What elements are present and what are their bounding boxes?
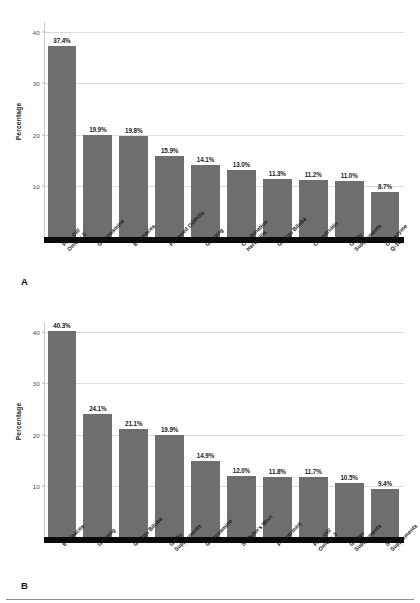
bar-value-label: 9.4% — [378, 480, 392, 487]
y-tick-label: 10 — [33, 482, 40, 489]
chart-panel-a: Percentage 10203040 37.4%19.9%19.8%15.9%… — [0, 0, 420, 300]
figure-page: Percentage 10203040 37.4%19.9%19.8%15.9%… — [0, 0, 420, 603]
bar-value-label: 19.9% — [89, 126, 106, 133]
y-tick-label: 40 — [33, 29, 40, 36]
bar — [83, 135, 112, 237]
bar-column: 11.3% — [263, 22, 292, 237]
bar — [335, 181, 364, 237]
bar — [83, 414, 112, 537]
bar — [299, 180, 328, 237]
bar-column: 12.0% — [227, 322, 256, 537]
bar-column: 19.9% — [83, 22, 112, 237]
bar-column: 24.1% — [83, 322, 112, 537]
bar — [299, 477, 328, 537]
bar-column: 11.2% — [299, 22, 328, 237]
bar-value-label: 19.9% — [161, 426, 178, 433]
bar-column: 14.9% — [191, 322, 220, 537]
bar-value-label: 11.0% — [341, 172, 358, 179]
bar-value-label: 10.5% — [340, 474, 357, 481]
bar-column: 19.9% — [155, 322, 184, 537]
bar — [227, 170, 256, 237]
bar-value-label: 11.8% — [269, 468, 286, 475]
y-tick-label: 20 — [33, 431, 40, 438]
bar-column: 37.4% — [48, 22, 77, 237]
bar-column: 13.0% — [227, 22, 256, 237]
bar-column: 11.0% — [335, 22, 364, 237]
y-tick-label: 30 — [33, 380, 40, 387]
bar — [119, 429, 148, 537]
bar-column: 14.1% — [191, 22, 220, 237]
bar-column: 10.5% — [335, 322, 364, 537]
bar-column: 8.7% — [371, 22, 400, 237]
bar-value-label: 14.9% — [197, 452, 214, 459]
y-tick-label: 40 — [33, 329, 40, 336]
y-axis-title-b: Percentage — [15, 392, 22, 452]
bar-value-label: 37.4% — [53, 37, 70, 44]
chart-panel-b: Percentage 10203040 40.3%24.1%21.1%19.9%… — [0, 300, 420, 603]
y-tick-label: 10 — [33, 182, 40, 189]
bar-value-label: 8.7% — [378, 183, 392, 190]
bar-value-label: 19.8% — [125, 127, 142, 134]
bar-column: 11.7% — [299, 322, 328, 537]
bar-series-a: 37.4%19.9%19.8%15.9%14.1%13.0%11.3%11.2%… — [44, 22, 404, 237]
bar-value-label: 11.3% — [269, 170, 286, 177]
bar-value-label: 11.7% — [305, 468, 322, 475]
x-axis-labels-a: Fish Oil/ Omega 3GlucosamineEchinaceaFla… — [44, 243, 404, 293]
bar-value-label: 12.0% — [233, 467, 250, 474]
bar-value-label: 14.1% — [197, 156, 214, 163]
bar-value-label: 24.1% — [89, 405, 106, 412]
bar-column: 21.1% — [119, 322, 148, 537]
bar-column: 11.8% — [263, 322, 292, 537]
bar — [48, 331, 77, 537]
y-axis-title-a: Percentage — [15, 92, 22, 152]
bar-value-label: 13.0% — [233, 161, 250, 168]
plot-wrap-a: 10203040 37.4%19.9%19.8%15.9%14.1%13.0%1… — [44, 22, 404, 237]
x-axis-labels-b: EchinaceaGinsengGinkgo BilobaGarlic Supp… — [44, 543, 404, 597]
bar-value-label: 11.2% — [305, 171, 322, 178]
bar — [263, 477, 292, 537]
bar — [155, 156, 184, 237]
bar — [48, 46, 77, 237]
bar-value-label: 15.9% — [161, 147, 178, 154]
plot-wrap-b: 10203040 40.3%24.1%21.1%19.9%14.9%12.0%1… — [44, 322, 404, 537]
bar-value-label: 40.3% — [53, 322, 70, 329]
bar-value-label: 21.1% — [125, 420, 142, 427]
panel-letter-a: A — [21, 276, 28, 287]
y-tick-label: 20 — [33, 131, 40, 138]
bar-column: 15.9% — [155, 22, 184, 237]
bar — [191, 165, 220, 237]
footer-divider — [6, 599, 414, 600]
bar — [335, 483, 364, 537]
bar-column: 19.8% — [119, 22, 148, 237]
bar-column: 40.3% — [48, 322, 77, 537]
panel-letter-b: B — [21, 580, 28, 591]
bar-series-b: 40.3%24.1%21.1%19.9%14.9%12.0%11.8%11.7%… — [44, 322, 404, 537]
bar — [227, 476, 256, 537]
bar-column: 9.4% — [371, 322, 400, 537]
y-tick-label: 30 — [33, 80, 40, 87]
